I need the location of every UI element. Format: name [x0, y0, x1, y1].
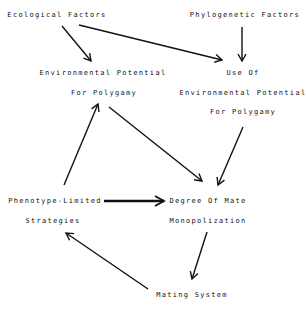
- arrow-env-potential-to-degree: [109, 107, 202, 181]
- arrow-phenotype-to-env-potential: [64, 104, 98, 185]
- node-degree-of-mate-line2: Monopolization: [169, 217, 246, 225]
- node-phenotype-limited-line1: Phenotype-Limited: [8, 197, 102, 205]
- node-use-of-line2: Environmental Potential: [180, 89, 306, 97]
- arrows-layer: [0, 0, 306, 311]
- arrow-mating-system-to-strategies: [66, 233, 148, 289]
- arrow-ecological-to-use-of: [79, 25, 222, 60]
- node-phylogenetic-factors: Phylogenetic Factors: [190, 11, 300, 19]
- node-environmental-potential-line2: For Polygamy: [71, 89, 137, 97]
- arrow-use-of-to-degree: [218, 127, 243, 185]
- node-ecological-factors: Ecological Factors: [7, 11, 106, 19]
- node-mating-system: Mating System: [156, 291, 228, 299]
- node-use-of-line3: For Polygamy: [210, 108, 276, 116]
- mating-system-flow-diagram: Ecological Factors Phylogenetic Factors …: [0, 0, 306, 311]
- node-degree-of-mate-line1: Degree Of Mate: [169, 197, 246, 205]
- node-use-of-line1: Use Of: [226, 69, 259, 77]
- arrow-monopolization-to-mating-system: [192, 232, 207, 279]
- node-environmental-potential-line1: Environmental Potential: [40, 69, 167, 77]
- arrow-ecological-to-env-potential: [62, 26, 91, 61]
- node-phenotype-limited-line2: Strategies: [25, 217, 80, 225]
